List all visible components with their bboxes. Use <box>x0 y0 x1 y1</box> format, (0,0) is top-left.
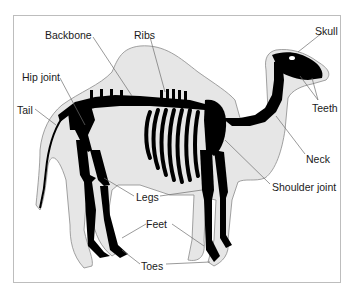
label-hip-joint: Hip joint <box>22 71 60 83</box>
label-ribs: Ribs <box>134 29 155 41</box>
camel-skeleton-illustration <box>0 0 355 293</box>
label-feet: Feet <box>146 218 167 230</box>
label-backbone: Backbone <box>45 29 92 41</box>
label-shoulder-joint: Shoulder joint <box>272 181 336 193</box>
label-neck: Neck <box>306 153 330 165</box>
label-tail: Tail <box>17 104 33 116</box>
label-skull: Skull <box>315 25 338 37</box>
label-toes: Toes <box>141 260 163 272</box>
label-legs: Legs <box>136 191 159 203</box>
eye-socket <box>289 56 295 60</box>
label-teeth: Teeth <box>312 102 338 114</box>
